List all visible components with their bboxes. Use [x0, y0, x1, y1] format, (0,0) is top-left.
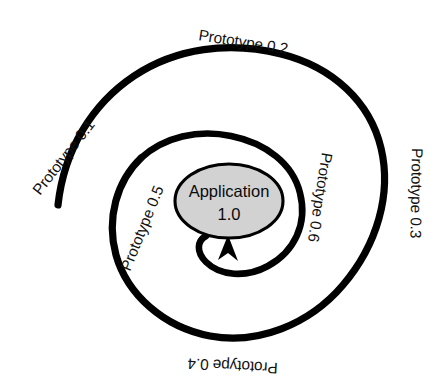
stage-label-prototype-0-5: Prototype 0.5: [117, 183, 167, 273]
application-node-label-line2: 1.0: [218, 205, 241, 223]
stage-label-prototype-0-2: Prototype 0.2: [198, 26, 290, 57]
spiral-diagram: Application 1.0 Prototype 0.1 Prototype …: [0, 0, 445, 380]
application-node-label-line1: Application: [189, 182, 270, 200]
application-node: [175, 164, 283, 238]
spiral-canvas: Application 1.0 Prototype 0.1 Prototype …: [0, 0, 445, 380]
stage-label-prototype-0-4: Prototype 0.4: [187, 355, 279, 377]
stage-label-prototype-0-6: Prototype 0.6: [305, 152, 336, 244]
stage-label-prototype-0-3: Prototype 0.3: [407, 148, 426, 239]
